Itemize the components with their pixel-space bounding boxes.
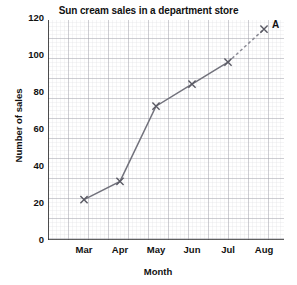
- x-axis-tick-labels: Mar Apr May Jun Jul Aug: [48, 244, 284, 262]
- plot-svg: [48, 18, 284, 240]
- y-tick-label: 120: [16, 12, 44, 23]
- plot-area: A: [48, 18, 284, 240]
- x-tick-label-jun: Jun: [172, 244, 212, 255]
- y-tick-label: 0: [16, 234, 44, 245]
- x-tick-label-apr: Apr: [100, 244, 140, 255]
- x-tick-label-may: May: [136, 244, 176, 255]
- y-tick-label: 60: [16, 123, 44, 134]
- y-tick-label: 20: [16, 197, 44, 208]
- x-tick-label-mar: Mar: [64, 244, 104, 255]
- y-tick-label: 80: [16, 86, 44, 97]
- major-gridlines: [48, 20, 284, 240]
- point-a-label: A: [272, 19, 279, 30]
- y-tick-label: 100: [16, 49, 44, 60]
- x-tick-label-aug: Aug: [244, 244, 284, 255]
- x-axis-label: Month: [48, 266, 268, 277]
- chart-title: Sun cream sales in a department store: [0, 5, 297, 16]
- y-axis-tick-labels: 120 100 80 60 40 20 0: [10, 18, 44, 240]
- line-chart: Sun cream sales in a department store Nu…: [0, 0, 297, 285]
- y-tick-label: 40: [16, 160, 44, 171]
- x-tick-label-jul: Jul: [208, 244, 248, 255]
